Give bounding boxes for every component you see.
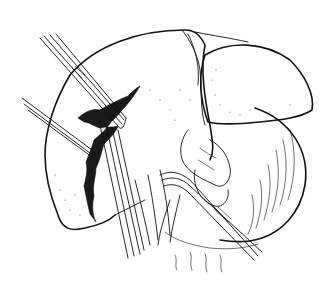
liver-right-lobe (45, 30, 213, 229)
illustration-canvas (0, 0, 334, 290)
forceps-left (22, 98, 96, 160)
tissue-bottom (165, 232, 258, 272)
hilar-vessels (100, 124, 180, 258)
stomach (220, 108, 306, 242)
liver-left-lobe (182, 30, 313, 125)
hilar-region (181, 130, 231, 206)
liver-illustration (0, 0, 334, 290)
